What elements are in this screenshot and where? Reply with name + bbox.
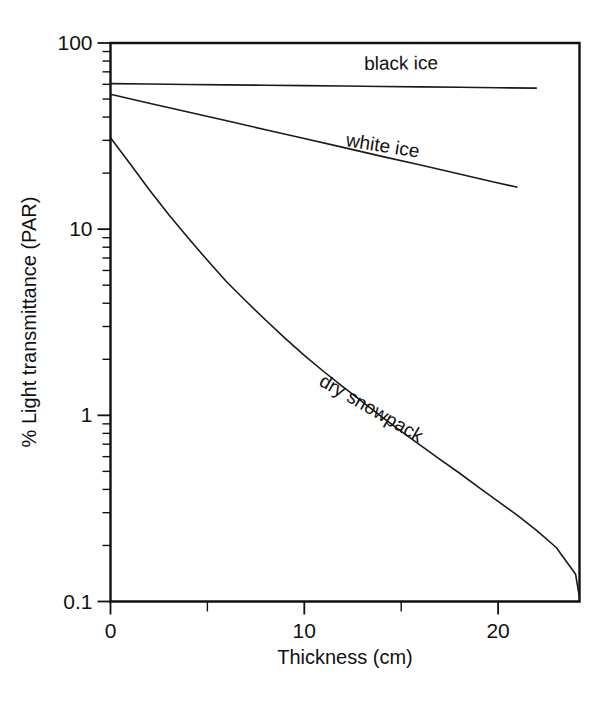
plot-frame bbox=[111, 43, 580, 602]
series-label-dry-snowpack: dry snowpack bbox=[316, 370, 428, 447]
y-tick-label: 0.1 bbox=[63, 590, 92, 613]
x-tick-label: 10 bbox=[293, 619, 316, 642]
series-line-dry-snowpack bbox=[111, 138, 580, 598]
x-axis-tick-labels: 01020 bbox=[105, 619, 510, 642]
y-axis-ticks bbox=[98, 43, 111, 602]
y-tick-label: 1 bbox=[81, 403, 93, 426]
light-transmittance-chart: 1001010.1 01020 black icewhite icedry sn… bbox=[0, 0, 608, 703]
y-axis-title: % Light transmittance (PAR) bbox=[18, 197, 40, 448]
x-axis-ticks bbox=[111, 602, 499, 615]
series-line-white-ice bbox=[111, 94, 518, 187]
x-tick-label: 20 bbox=[486, 619, 509, 642]
y-tick-label: 100 bbox=[57, 31, 92, 54]
series-line-black-ice bbox=[111, 84, 537, 89]
series-lines bbox=[111, 84, 580, 598]
x-axis-title: Thickness (cm) bbox=[277, 646, 413, 668]
x-tick-label: 0 bbox=[105, 619, 117, 642]
y-tick-label: 10 bbox=[69, 217, 92, 240]
figure-container: 1001010.1 01020 black icewhite icedry sn… bbox=[0, 0, 608, 703]
series-labels: black icewhite icedry snowpack bbox=[316, 52, 438, 446]
series-label-black-ice: black ice bbox=[364, 52, 438, 74]
y-axis-tick-labels: 1001010.1 bbox=[57, 31, 92, 613]
